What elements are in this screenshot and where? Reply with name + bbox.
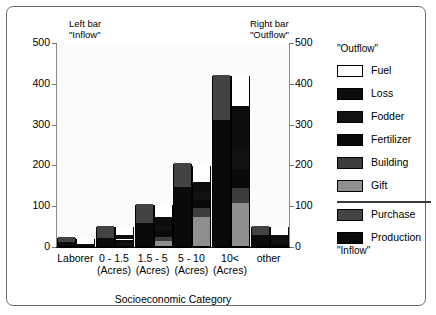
bar-segment-fodder	[271, 240, 288, 243]
legend-swatch-loss	[337, 88, 363, 100]
bar-segment-purchase	[213, 75, 230, 120]
inflow-bar[interactable]	[96, 227, 115, 247]
inflow-bar[interactable]	[212, 76, 231, 247]
bar-segment-purchase	[174, 163, 191, 187]
legend-divider	[337, 201, 431, 203]
plot-area: 00100100200200300300400400500500	[56, 43, 290, 247]
bar-segment-purchase	[97, 226, 114, 238]
bar-segment-fuel	[271, 226, 288, 235]
legend-swatch-building	[337, 157, 363, 169]
bar-segment-loss	[77, 244, 94, 246]
chart-frame: Left bar "Inflow" Right bar "Outflow" GJ…	[6, 6, 426, 306]
y-axis-label-right: 200	[295, 158, 329, 170]
bars-layer	[57, 43, 289, 247]
right-bar-annotation-line1: Right bar	[250, 18, 289, 29]
legend-swatch-gift	[337, 180, 363, 192]
inflow-bar[interactable]	[135, 205, 154, 247]
outflow-bar[interactable]	[76, 239, 95, 247]
bar-segment-production	[136, 223, 153, 246]
outflow-bar[interactable]	[154, 205, 173, 247]
bar-group	[251, 43, 289, 247]
y-axis-label-right: 400	[295, 77, 329, 89]
bar-segment-fuel	[193, 165, 210, 182]
legend-swatch-purchase	[337, 209, 363, 221]
x-axis-category-label: other	[237, 252, 300, 264]
y-axis-label-right: 300	[295, 118, 329, 130]
y-axis-label-left: 200	[16, 158, 50, 170]
bar-segment-building	[232, 188, 249, 204]
bar-segment-production	[174, 187, 191, 246]
category-name: other	[257, 252, 281, 264]
bar-segment-fertilizer	[116, 240, 133, 243]
legend-label: Gift	[371, 179, 387, 191]
bar-segment-production	[58, 242, 75, 246]
bar-group	[212, 43, 250, 247]
outflow-bar[interactable]	[115, 227, 134, 247]
legend-label: Purchase	[371, 208, 415, 220]
y-tick-right	[289, 206, 294, 207]
bar-segment-fertilizer	[155, 231, 172, 237]
right-bar-annotation-line2: "Outflow"	[250, 29, 289, 40]
category-name: 10<	[221, 252, 239, 264]
inflow-bar[interactable]	[251, 227, 270, 247]
bar-segment-fuel	[116, 226, 133, 235]
legend-swatch-fodder	[337, 111, 363, 123]
bar-segment-fertilizer	[193, 200, 210, 208]
bar-segment-fertilizer	[271, 244, 288, 246]
y-tick-right	[289, 43, 294, 44]
inflow-bar[interactable]	[173, 164, 192, 247]
bar-segment-fodder	[155, 226, 172, 232]
y-axis-label-right: 0	[295, 240, 329, 252]
left-bar-annotation-line1: Left bar	[69, 18, 101, 29]
bar-segment-fuel	[232, 75, 249, 106]
bar-segment-fodder	[232, 147, 249, 169]
legend-footer: "Inflow"	[337, 245, 370, 256]
outflow-bar[interactable]	[231, 76, 250, 247]
y-axis-label-right: 100	[295, 199, 329, 211]
right-bar-annotation: Right bar "Outflow"	[250, 18, 289, 40]
y-tick-right	[289, 84, 294, 85]
y-tick-right	[289, 165, 294, 166]
bar-segment-fuel	[77, 238, 94, 244]
bar-segment-purchase	[136, 204, 153, 222]
y-axis-label-left: 0	[16, 240, 50, 252]
bar-group	[173, 43, 211, 247]
bar-group	[96, 43, 134, 247]
legend-swatch-production	[337, 232, 363, 244]
y-axis-label-left: 400	[16, 77, 50, 89]
bar-segment-loss	[271, 235, 288, 241]
bar-segment-loss	[193, 182, 210, 192]
y-axis-label-left: 300	[16, 118, 50, 130]
bar-segment-gift	[193, 217, 210, 246]
legend-header: "Outflow"	[337, 43, 378, 54]
bar-group	[57, 43, 95, 247]
inflow-bar[interactable]	[57, 238, 76, 247]
bar-segment-production	[252, 235, 269, 246]
legend-label: Loss	[371, 87, 393, 99]
legend-label: Production	[371, 231, 421, 243]
y-axis-label-left: 100	[16, 199, 50, 211]
bar-segment-fodder	[116, 243, 133, 246]
category-sublabel: (Acres)	[199, 264, 262, 276]
bar-segment-loss	[116, 235, 133, 240]
x-axis-line	[56, 247, 290, 248]
bar-segment-building	[193, 208, 210, 217]
bar-segment-gift	[232, 203, 249, 246]
outflow-bar[interactable]	[192, 166, 211, 247]
bar-segment-purchase	[58, 237, 75, 242]
x-axis-title: Socioeconomic Category	[56, 293, 290, 305]
legend-label: Building	[371, 156, 408, 168]
y-axis-label-right: 500	[295, 36, 329, 48]
bar-segment-fertilizer	[232, 169, 249, 187]
bar-segment-fuel	[155, 204, 172, 217]
left-bar-annotation: Left bar "Inflow"	[69, 18, 101, 40]
outflow-bar[interactable]	[270, 227, 289, 247]
left-bar-annotation-line2: "Inflow"	[69, 29, 101, 40]
legend-swatch-fuel	[337, 65, 363, 77]
bar-segment-production	[97, 238, 114, 246]
legend-label: Fodder	[371, 110, 404, 122]
bar-group	[135, 43, 173, 247]
legend-swatch-fertilizer	[337, 134, 363, 146]
bar-segment-fodder	[193, 192, 210, 200]
bar-segment-building	[155, 237, 172, 241]
